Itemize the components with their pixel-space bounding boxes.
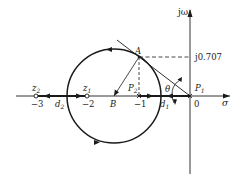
label-b: B <box>109 99 116 109</box>
label-p1: P1 <box>194 83 205 94</box>
label-d2: d2 <box>55 99 64 110</box>
tick-label-m1: −1 <box>134 99 147 109</box>
real-axis-label: σ <box>222 98 229 108</box>
imag-marker-label: j0.707 <box>194 52 222 62</box>
tick-label-m2: −2 <box>82 99 95 109</box>
tick-label-m3: −3 <box>31 99 44 109</box>
point-a-marker <box>138 56 141 59</box>
locus-arrow-icon <box>43 94 50 99</box>
label-p2: P2 <box>127 83 138 94</box>
circle-arrow-icon <box>106 47 112 52</box>
locus-arrow-icon <box>76 94 83 99</box>
label-theta: θ <box>165 84 170 94</box>
root-locus-diagram: jω j0.707 σ −3 −2 −1 0 z2 z1 P2 P1 A B d… <box>0 0 241 185</box>
zero-z2-marker <box>34 94 38 98</box>
radius-arrow-icon <box>114 90 119 97</box>
label-a: A <box>134 46 141 56</box>
label-d1: d1 <box>160 99 169 110</box>
tick-label-zero: 0 <box>194 99 199 109</box>
zero-z1-marker <box>85 94 89 98</box>
locus-arrow-icon <box>147 94 154 99</box>
label-z1: z1 <box>82 83 91 94</box>
imag-axis-arrow-icon <box>188 9 193 17</box>
imaginary-axis <box>188 9 193 174</box>
imag-axis-label: jω <box>177 7 188 17</box>
label-z2: z2 <box>31 83 40 94</box>
